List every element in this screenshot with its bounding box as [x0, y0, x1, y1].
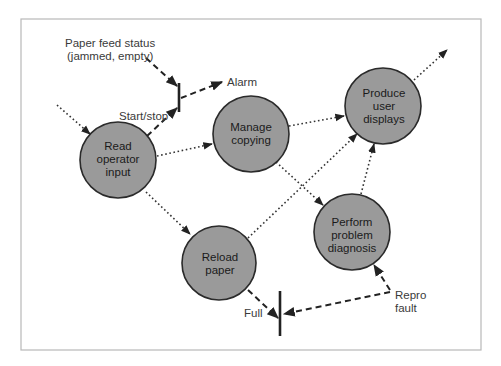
- node-label-line: input: [106, 166, 132, 178]
- node-label-line: Reload: [202, 251, 238, 263]
- node-read-operator-input: Read operator input: [80, 122, 156, 198]
- flow-repro-to-bar: [284, 292, 390, 314]
- label-fault: fault: [395, 302, 418, 314]
- node-reload-paper: Reload paper: [182, 226, 256, 300]
- node-label-line: problem: [331, 229, 373, 241]
- label-start-stop: Start/stop: [119, 110, 168, 122]
- flow-read-to-reload: [146, 192, 190, 234]
- flow-manage-to-diagnose: [276, 162, 323, 205]
- flow-external-to-read: [57, 105, 90, 134]
- node-label-line: Read: [104, 140, 132, 152]
- flow-diagnose-to-produce: [361, 144, 374, 194]
- flow-read-to-manage: [157, 144, 212, 156]
- node-label-line: Perform: [332, 216, 373, 228]
- label-full: Full: [244, 307, 263, 319]
- flow-produce-to-external: [414, 50, 447, 80]
- flow-paper-feed-status: [146, 58, 177, 86]
- node-produce-user-displays: Produce user displays: [345, 68, 421, 144]
- flow-manage-to-produce: [289, 116, 344, 126]
- node-manage-copying: Manage copying: [213, 96, 289, 172]
- node-label-line: Manage: [230, 121, 272, 133]
- label-paper-feed-detail: (jammed, empty): [67, 50, 153, 62]
- node-label-line: user: [373, 100, 396, 112]
- flow-repro-to-diagnose: [374, 265, 390, 290]
- node-label-line: displays: [363, 113, 405, 125]
- node-label-line: operator: [97, 153, 140, 165]
- label-repro: Repro: [395, 289, 426, 301]
- node-label-line: paper: [205, 264, 235, 276]
- label-alarm: Alarm: [227, 76, 257, 88]
- label-paper-feed-status: Paper feed status: [65, 37, 155, 49]
- node-label-line: Produce: [363, 87, 406, 99]
- flow-alarm: [181, 82, 222, 98]
- data-flow-diagram: Read operator input Manage copying Produ…: [0, 0, 501, 366]
- node-perform-problem-diagnosis: Perform problem diagnosis: [314, 194, 390, 270]
- node-label-line: diagnosis: [328, 242, 377, 254]
- node-label-line: copying: [231, 134, 271, 146]
